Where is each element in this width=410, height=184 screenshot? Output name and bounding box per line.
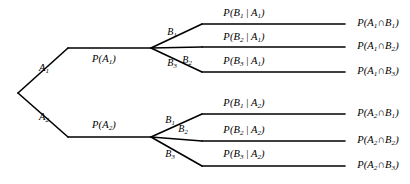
edge-A2B2 bbox=[151, 137, 202, 141]
label-joint-A1B3: P(A1∩B3) bbox=[357, 66, 399, 78]
label-conditional-A2B1: P(B1 | A2) bbox=[223, 98, 264, 110]
label-conditional-A2B3: P(B3 | A2) bbox=[223, 149, 264, 161]
label-branch-A1B3: B3 bbox=[167, 58, 177, 69]
probability-tree-diagram: A1P(A1)A2P(A2)B1P(B1 | A1)P(A1∩B1)B2P(B2… bbox=[0, 0, 410, 184]
label-branch-A2B1: B1 bbox=[165, 115, 175, 126]
label-conditional-A1B1: P(B1 | A1) bbox=[223, 8, 264, 20]
label-joint-A2B1: P(A2∩B1) bbox=[357, 108, 399, 120]
label-joint-A1B1: P(A1∩B1) bbox=[357, 18, 399, 30]
label-A2: A2 bbox=[39, 112, 49, 124]
label-joint-A1B2: P(A1∩B2) bbox=[357, 41, 399, 53]
prob-A1: P(A1) bbox=[92, 54, 116, 66]
label-conditional-A1B2: P(B2 | A1) bbox=[223, 32, 264, 44]
label-joint-A2B3: P(A2∩B3) bbox=[357, 160, 399, 172]
prob-A2: P(A2) bbox=[92, 120, 116, 132]
edge-A2B3 bbox=[151, 137, 202, 166]
label-A1: A1 bbox=[39, 63, 49, 75]
label-conditional-A1B3: P(B3 | A1) bbox=[223, 56, 264, 68]
label-branch-A2B2: B2 bbox=[178, 124, 188, 135]
label-joint-A2B2: P(A2∩B2) bbox=[357, 135, 399, 147]
label-conditional-A2B2: P(B2 | A2) bbox=[223, 125, 264, 137]
edge-A2B1 bbox=[151, 114, 202, 137]
label-branch-A1B2: B2 bbox=[182, 55, 192, 66]
label-branch-A1B1: B1 bbox=[167, 27, 177, 38]
edge-A1B2 bbox=[151, 47, 202, 48]
label-branch-A2B3: B3 bbox=[165, 149, 175, 160]
tree-edges bbox=[0, 0, 410, 184]
